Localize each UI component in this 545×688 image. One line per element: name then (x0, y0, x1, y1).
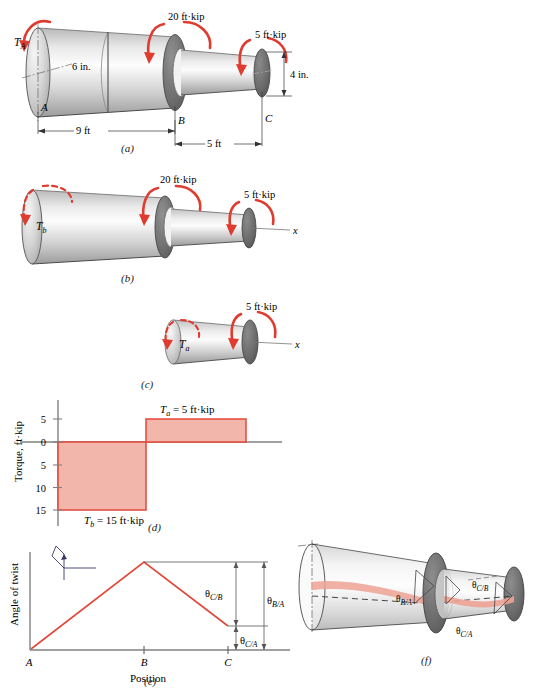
d-tick-10: 10 (36, 483, 47, 494)
e-xtick-b: B (141, 656, 148, 668)
e-xtick-c: C (224, 656, 232, 668)
e-label-theta-ba: θB/A (267, 595, 284, 609)
d-annotation-positive: Ta = 5 ft·kip (160, 403, 215, 418)
caption-f: (f) (421, 654, 431, 666)
point-label-b: B (178, 114, 185, 126)
panel-c-free-body-bc: x Ta 5 ft·kip (c) (0, 290, 340, 390)
f-label-theta-ca: θC/A (456, 626, 473, 639)
d-tick-5-pos: 5 (41, 414, 46, 425)
panel-b-svg: x Tb 20 ft·kip 5 ft·kip (0, 168, 340, 283)
panel-e-svg: Angle of twist A B C Position θC/B θB/A … (0, 540, 300, 688)
panel-c-svg: x Ta 5 ft·kip (0, 290, 340, 390)
caption-b: (b) (121, 272, 134, 284)
caption-e: (e) (144, 675, 156, 687)
label-4-in: 4 in. (290, 69, 309, 80)
e-xtick-a: A (25, 656, 33, 668)
point-label-a: A (40, 101, 48, 113)
e-label-theta-cb: θC/B (205, 588, 223, 602)
panel-a-svg: TA 20 ft·kip 5 ft·kip 6 in. 4 in. A B C (0, 0, 330, 155)
dim-5ft-label: 5 ft (207, 138, 221, 149)
d-annotation-negative: Tb = 15 ft·kip (84, 514, 145, 529)
d-tick-5-neg: 5 (41, 460, 46, 471)
panel-b-free-body-bc-ab: x Tb 20 ft·kip 5 ft·kip (b) (0, 168, 340, 283)
label-20-ftkip-b: 20 ft·kip (160, 174, 196, 185)
e-dimension-arrowheads (234, 562, 267, 650)
label-5-ftkip: 5 ft·kip (255, 29, 286, 40)
d-tick-0: 0 (41, 437, 46, 448)
d-tick-15: 15 (36, 505, 47, 516)
small-shaft-segment (181, 49, 274, 97)
panel-d-svg: 5 0 5 10 15 Torque, ft·kip Ta = 5 ft·kip… (0, 398, 320, 533)
point-label-c: C (265, 112, 273, 124)
label-20-ftkip: 20 ft·kip (168, 11, 204, 22)
panel-a-loading-diagram: TA 20 ft·kip 5 ft·kip 6 in. 4 in. A B C (0, 0, 330, 155)
caption-c: (c) (141, 378, 153, 390)
panel-f-svg: θB/A θC/B θC/A (288, 530, 545, 688)
dim-9ft-label: 9 ft (76, 125, 90, 136)
e-dimension-lines (228, 562, 268, 650)
d-bar-segment-bc (146, 419, 246, 442)
d-ylabel: Torque, ft·kip (12, 421, 24, 482)
twist-symbol-icon (52, 546, 96, 580)
label-5-ftkip-c: 5 ft·kip (246, 301, 277, 312)
x-axis-label-c: x (294, 339, 300, 350)
panel-d-torque-diagram: 5 0 5 10 15 Torque, ft·kip Ta = 5 ft·kip… (0, 398, 320, 533)
e-twist-curve (31, 562, 228, 649)
f-large-shaft (298, 540, 438, 632)
panel-e-angle-of-twist-diagram: Angle of twist A B C Position θC/B θB/A … (0, 540, 300, 688)
label-5-ftkip-b: 5 ft·kip (244, 189, 275, 200)
small-shaft-segment-b (171, 208, 256, 248)
caption-d: (d) (148, 521, 161, 533)
panel-f-deformed-shaft: θB/A θC/B θC/A (f) (288, 530, 545, 688)
x-axis-label-b: x (292, 225, 298, 236)
e-label-theta-ca: θC/A (240, 635, 258, 649)
d-bar-segment-ab (58, 442, 146, 510)
caption-a: (a) (121, 142, 134, 154)
label-6-in: 6 in. (72, 61, 91, 72)
e-ylabel: Angle of twist (8, 563, 20, 626)
